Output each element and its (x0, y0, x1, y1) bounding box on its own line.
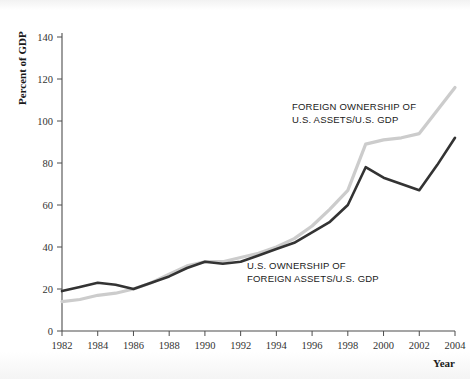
us-ownership-label: U.S. OWNERSHIP OF (247, 260, 346, 271)
y-tick-label: 60 (43, 200, 54, 211)
x-tick-label: 1998 (337, 340, 358, 351)
x-tick-label: 1982 (52, 340, 73, 351)
y-tick-label: 140 (37, 32, 53, 43)
line-chart-svg: 020406080100120140 198219841986198819901… (0, 0, 470, 379)
x-tick-label: 1988 (159, 340, 180, 351)
y-tick-label: 40 (43, 242, 54, 253)
y-tick-label: 20 (43, 284, 54, 295)
x-tick-label: 1992 (230, 340, 251, 351)
x-tick-label: 1986 (123, 340, 144, 351)
y-axis-ticks: 020406080100120140 (37, 32, 62, 337)
chart-annotations: FOREIGN OWNERSHIP OFU.S. ASSETS/U.S. GDP… (247, 101, 416, 284)
foreign-ownership-label: U.S. ASSETS/U.S. GDP (292, 114, 398, 125)
x-tick-label: 2004 (445, 340, 467, 351)
y-tick-label: 120 (37, 74, 53, 85)
y-tick-label: 100 (37, 116, 53, 127)
y-tick-label: 0 (48, 326, 53, 337)
x-axis-title: Year (433, 357, 455, 369)
us-ownership-label: FOREIGN ASSETS/U.S. GDP (247, 273, 379, 284)
chart-figure: 020406080100120140 198219841986198819901… (0, 0, 470, 379)
x-tick-label: 1994 (266, 340, 288, 351)
x-tick-label: 1996 (302, 340, 323, 351)
x-tick-label: 1990 (194, 340, 215, 351)
x-axis-ticks: 1982198419861988199019921994199619982000… (52, 331, 467, 351)
x-tick-label: 2002 (409, 340, 430, 351)
x-tick-label: 2000 (373, 340, 394, 351)
x-tick-label: 1984 (87, 340, 109, 351)
y-axis-title: Percent of GDP (16, 31, 28, 105)
y-tick-label: 80 (43, 158, 54, 169)
foreign-ownership-label: FOREIGN OWNERSHIP OF (292, 101, 416, 112)
